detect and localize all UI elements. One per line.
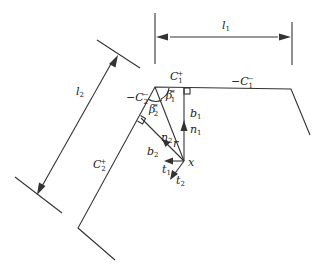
- l1-label: l1: [222, 19, 230, 33]
- label-c1-plus: C+1: [170, 70, 183, 85]
- label-t1: t1: [162, 163, 171, 177]
- n1-arrow-icon: [181, 120, 188, 131]
- label-b2: b2: [147, 145, 159, 159]
- label-t2: t2: [176, 174, 185, 188]
- label-c1-minus: −C−1: [231, 75, 254, 90]
- label-b1: b1: [190, 107, 202, 121]
- l1-left-arrow-icon: [156, 34, 168, 41]
- label-n2: n2: [161, 131, 173, 145]
- label-c2-plus: C+2: [93, 158, 106, 173]
- right-angle-marker-b1: [184, 88, 190, 94]
- label-c2-minus: −C−2: [126, 91, 149, 106]
- dimension-l2: l2: [15, 40, 140, 213]
- label-r: r: [173, 137, 179, 150]
- label-n1: n1: [190, 123, 202, 137]
- l2-bottom-tick: [15, 177, 62, 213]
- label-x: x: [188, 156, 195, 169]
- diagram-canvas: l1 l2 C+1 −C−1 −C−2 C+2 β*1 β*2 b1 n1 r: [0, 0, 316, 267]
- label-beta2: β*2: [148, 103, 158, 118]
- dimension-l1: l1: [155, 13, 292, 65]
- l2-label: l2: [76, 85, 84, 99]
- label-beta1: β*1: [165, 89, 175, 104]
- l1-right-arrow-icon: [279, 34, 291, 41]
- l2-top-tick: [97, 40, 140, 68]
- l2-bottom-arrow-icon: [37, 183, 46, 196]
